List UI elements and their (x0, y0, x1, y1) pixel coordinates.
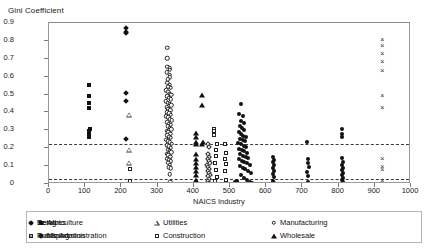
data-point-services (250, 181, 254, 183)
chart-legend: AgricultureMiningUtilitiesConstructionMa… (26, 211, 422, 243)
upper-dashed-reference (49, 144, 409, 145)
data-point-agriculture (87, 106, 91, 110)
filled-triangle-icon (270, 232, 277, 239)
y-axis-title: Gini Coefficient (8, 6, 64, 15)
data-point-services (272, 181, 276, 183)
open-square-icon (153, 232, 160, 239)
y-tick-mark (44, 94, 48, 95)
data-point-manufacturing (165, 56, 170, 61)
data-point-services (246, 156, 250, 160)
data-point-mining (123, 136, 129, 142)
y-tick-label: 0 (0, 179, 14, 187)
y-tick-label: 0.1 (0, 161, 14, 169)
data-point-services (307, 165, 311, 169)
data-point-construction (213, 179, 217, 183)
x-tick-label: 200 (100, 187, 140, 195)
x-tick-label: 900 (354, 187, 394, 195)
y-tick-mark (44, 111, 48, 112)
data-point-construction (128, 179, 132, 183)
x-tick-mark (229, 183, 230, 187)
data-point-construction (214, 148, 218, 152)
legend-item-label: Wholesale (280, 232, 315, 240)
data-point-agriculture (87, 101, 91, 105)
y-tick-mark (44, 129, 48, 130)
data-point-public-administration: × (380, 154, 384, 161)
legend-item-services[interactable]: Services (27, 219, 66, 227)
data-point-mining (123, 90, 129, 96)
data-point-construction (213, 161, 217, 165)
x-tick-label: 500 (209, 187, 249, 195)
data-point-services (305, 140, 309, 144)
x-tick-label: 700 (281, 187, 321, 195)
legend-item-label: Public Administration (37, 232, 107, 240)
data-point-services (242, 121, 246, 125)
x-tick-label: 400 (173, 187, 213, 195)
data-point-services (243, 139, 247, 143)
data-point-manufacturing (167, 172, 172, 177)
y-tick-label: 0.8 (0, 36, 14, 44)
y-tick-label: 0.3 (0, 125, 14, 133)
open-triangle-icon (153, 219, 160, 226)
data-point-mining (123, 30, 129, 36)
x-tick-label: 300 (137, 187, 177, 195)
x-tick-label: 100 (64, 187, 104, 195)
x-tick-label: 0 (28, 187, 68, 195)
legend-item-label: Construction (163, 232, 205, 240)
x-tick-mark (265, 183, 266, 187)
x-tick-mark (338, 183, 339, 187)
legend-item-public-administration[interactable]: ×Public Administration (27, 232, 107, 240)
legend-item-manufacturing[interactable]: Manufacturing (270, 219, 328, 227)
data-point-mining (123, 98, 129, 104)
data-point-wholesale (193, 178, 199, 183)
y-tick-mark (44, 40, 48, 41)
lower-dashed-reference (49, 179, 409, 180)
data-point-retail (206, 144, 212, 150)
data-point-utilities (126, 160, 132, 165)
data-point-transportation (224, 178, 228, 182)
data-point-services (241, 114, 245, 118)
x-tick-mark (157, 183, 158, 187)
data-point-public-administration: × (380, 42, 384, 49)
data-point-manufacturing (168, 180, 173, 183)
legend-item-label: Utilities (163, 219, 187, 227)
x-tick-mark (120, 183, 121, 187)
y-tick-label: 0.6 (0, 72, 14, 80)
data-point-services (306, 180, 310, 183)
data-point-transportation (223, 157, 227, 161)
data-point-services (305, 170, 309, 174)
data-point-services (242, 128, 246, 132)
x-tick-mark (84, 183, 85, 187)
plot-area: ×××××××××××× (48, 22, 410, 183)
data-point-services (340, 135, 344, 139)
data-point-services (248, 163, 252, 167)
chart-root: Gini Coefficient ×××××××××××× 00.10.20.3… (0, 0, 428, 248)
data-point-utilities (126, 113, 132, 118)
data-point-transportation (224, 151, 228, 155)
data-point-public-administration: × (380, 179, 384, 183)
data-point-services (233, 180, 237, 183)
data-point-public-administration: × (380, 103, 384, 110)
data-point-agriculture (87, 83, 91, 87)
data-point-agriculture (87, 135, 91, 139)
y-tick-label: 0.2 (0, 143, 14, 151)
data-point-transportation (223, 169, 227, 173)
y-tick-mark (44, 58, 48, 59)
open-circle-icon (270, 219, 277, 226)
data-point-utilities (126, 148, 132, 153)
legend-item-utilities[interactable]: Utilities (153, 219, 187, 227)
data-point-wholesale (199, 102, 205, 107)
y-tick-label: 0.9 (0, 18, 14, 26)
data-point-services (340, 156, 344, 160)
x-tick-label: 600 (245, 187, 285, 195)
filled-circle-icon (27, 219, 34, 226)
y-tick-mark (44, 165, 48, 166)
data-point-manufacturing (168, 166, 173, 171)
legend-item-construction[interactable]: Construction (153, 232, 205, 240)
data-point-transportation (223, 142, 227, 146)
y-tick-label: 0.7 (0, 54, 14, 62)
data-point-agriculture (87, 94, 91, 98)
data-point-services (306, 174, 310, 178)
legend-item-wholesale[interactable]: Wholesale (270, 232, 315, 240)
y-tick-label: 0.4 (0, 107, 14, 115)
y-tick-label: 0.5 (0, 90, 14, 98)
